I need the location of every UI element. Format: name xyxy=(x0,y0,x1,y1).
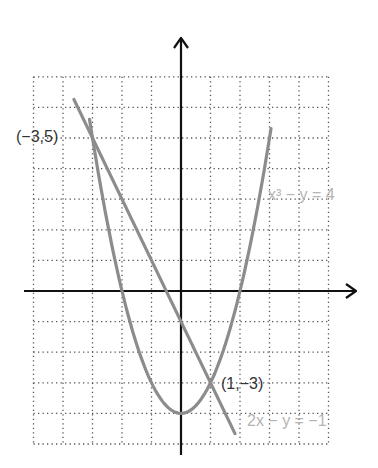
equation-label-line: 2x − y = −1 xyxy=(247,412,327,429)
point-label-a: (−3,5) xyxy=(16,128,58,145)
graph-plot: (−3,5) (1,−3) x³ − y = 4 2x − y = −1 xyxy=(0,0,378,468)
labels: (−3,5) (1,−3) x³ − y = 4 2x − y = −1 xyxy=(16,128,335,429)
equation-label-parabola: x³ − y = 4 xyxy=(268,186,335,203)
point-label-b: (1,−3) xyxy=(221,375,263,392)
